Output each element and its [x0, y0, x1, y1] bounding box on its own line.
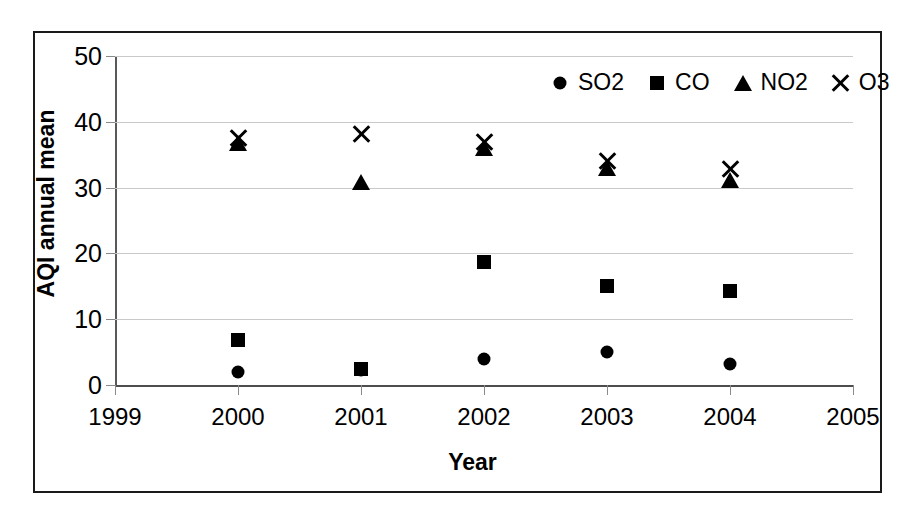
legend-marker-glyph	[554, 76, 567, 89]
data-point-co	[723, 284, 737, 298]
triangle-marker-icon	[732, 72, 754, 94]
x-tick-mark	[484, 385, 485, 395]
y-tick-label: 20	[74, 239, 102, 268]
legend-label: CO	[675, 69, 710, 96]
legend-label: NO2	[761, 69, 808, 96]
data-point-o3	[227, 127, 249, 149]
x-tick-label: 2000	[211, 403, 264, 431]
gridline	[115, 122, 853, 123]
x-tick-mark	[853, 385, 854, 395]
y-tick-label: 10	[74, 305, 102, 334]
x-tick-label: 2005	[826, 403, 879, 431]
circle-marker-icon	[549, 72, 571, 94]
plot-area: 01020304050 1999200020012002200320042005	[115, 56, 853, 385]
y-tick-label: 40	[74, 107, 102, 136]
data-point-o3	[719, 158, 741, 180]
y-tick-mark	[106, 122, 115, 123]
legend-marker-glyph	[830, 72, 852, 94]
data-point-co	[477, 255, 491, 269]
data-point-co	[354, 362, 368, 376]
x-tick-mark	[361, 385, 362, 395]
y-tick-label: 50	[74, 42, 102, 71]
x-tick-label: 2002	[457, 403, 510, 431]
x-tick-label: 2003	[580, 403, 633, 431]
data-point-so2	[724, 357, 737, 370]
y-axis-title: AQI annual mean	[33, 54, 60, 354]
x-axis-title: Year	[90, 449, 855, 476]
data-point-o3	[350, 123, 372, 145]
y-tick-mark	[106, 188, 115, 189]
x-marker-icon	[830, 72, 852, 94]
data-point-no2	[352, 174, 370, 190]
data-point-so2	[601, 346, 614, 359]
data-point-co	[231, 333, 245, 347]
x-tick-label: 1999	[88, 403, 141, 431]
y-tick-mark	[106, 253, 115, 254]
square-marker-icon	[646, 72, 668, 94]
gridline	[115, 319, 853, 320]
data-point-o3	[473, 131, 495, 153]
chart-legend: SO2CONO2O3	[549, 69, 890, 96]
legend-label: O3	[859, 69, 890, 96]
y-tick-mark	[106, 56, 115, 57]
legend-marker-glyph	[650, 76, 664, 90]
x-tick-mark	[238, 385, 239, 395]
data-point-co	[600, 279, 614, 293]
x-tick-label: 2001	[334, 403, 387, 431]
data-point-so2	[232, 366, 245, 379]
y-tick-mark	[106, 319, 115, 320]
data-point-o3	[596, 150, 618, 172]
x-tick-mark	[115, 385, 116, 395]
legend-entry-co: CO	[646, 69, 710, 96]
chart-figure: AQI annual mean Year 01020304050 1999200…	[0, 0, 913, 524]
data-point-so2	[478, 352, 491, 365]
legend-entry-no2: NO2	[732, 69, 808, 96]
y-tick-label: 0	[88, 371, 102, 400]
x-tick-mark	[730, 385, 731, 395]
y-tick-mark	[106, 385, 115, 386]
x-tick-mark	[607, 385, 608, 395]
y-tick-label: 30	[74, 173, 102, 202]
gridline	[115, 56, 853, 57]
gridline	[115, 188, 853, 189]
legend-entry-so2: SO2	[549, 69, 624, 96]
legend-marker-glyph	[734, 75, 752, 91]
legend-entry-o3: O3	[830, 69, 890, 96]
x-tick-label: 2004	[703, 403, 756, 431]
legend-label: SO2	[578, 69, 624, 96]
